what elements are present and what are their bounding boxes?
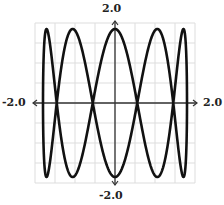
- x-max-label: 2.0: [203, 97, 222, 108]
- x-min-label: -2.0: [2, 97, 26, 108]
- y-min-label: -2.0: [99, 190, 123, 201]
- plot-area: [0, 0, 224, 205]
- y-max-label: 2.0: [102, 3, 121, 14]
